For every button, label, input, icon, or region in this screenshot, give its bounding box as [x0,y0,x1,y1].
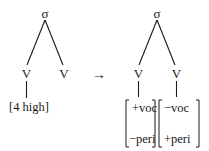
feature-matrix-1: +voc −peri [126,100,156,147]
matrix1-voc: +voc [131,102,151,115]
left-branch-right [45,20,63,65]
left-vowel-1: V [22,67,31,80]
right-branch-right [157,20,175,65]
right-vowel-1: V [134,67,143,80]
right-vowel-2: V [172,67,181,80]
rewrite-arrow: → [92,68,106,82]
left-branch-left [27,20,45,65]
left-feature-4-high: [4 high] [9,101,49,114]
matrix1-peri: −peri [129,133,151,146]
left-vowel-2: V [59,67,68,80]
right-branch-left [139,20,157,65]
feature-matrix-2: −voc +peri [159,100,200,147]
matrix2-peri: +peri [164,133,195,146]
right-root-sigma: σ [153,7,160,20]
matrix2-voc: −voc [164,102,195,115]
left-root-sigma: σ [41,7,48,20]
